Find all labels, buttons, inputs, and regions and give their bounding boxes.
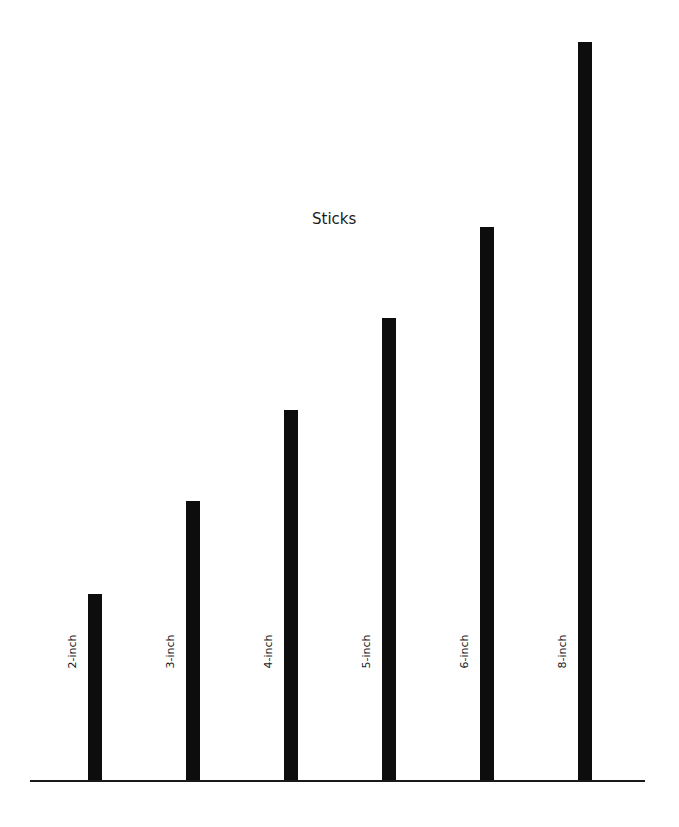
stick-6-inch: [480, 227, 494, 781]
stick-5-inch: [382, 318, 396, 781]
stick-8-inch: [578, 42, 592, 781]
diagram-title: Sticks: [312, 210, 356, 228]
baseline: [30, 780, 645, 782]
stick-label-8-inch: 8-inch: [556, 634, 569, 668]
stick-label-5-inch: 5-inch: [360, 634, 373, 668]
stick-3-inch: [186, 501, 200, 781]
sticks-diagram: Sticks 2-inch 3-inch 4-inch 5-inch 6-inc…: [0, 0, 679, 827]
stick-label-6-inch: 6-inch: [458, 634, 471, 668]
stick-4-inch: [284, 410, 298, 781]
stick-label-4-inch: 4-inch: [262, 634, 275, 668]
stick-label-2-inch: 2-inch: [66, 634, 79, 668]
stick-2-inch: [88, 594, 102, 781]
stick-label-3-inch: 3-inch: [164, 634, 177, 668]
